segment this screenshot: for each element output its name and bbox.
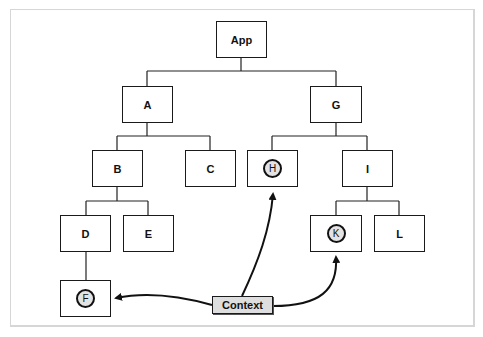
node-label: D bbox=[82, 228, 90, 240]
node-app: App bbox=[216, 21, 267, 58]
node-label: B bbox=[114, 163, 122, 175]
node-label: H bbox=[269, 163, 276, 174]
node-h: H bbox=[247, 150, 298, 187]
node-label: F bbox=[82, 293, 88, 304]
node-i: I bbox=[342, 150, 393, 187]
node-f: F bbox=[60, 280, 111, 317]
node-c: C bbox=[185, 150, 236, 187]
node-label: E bbox=[145, 228, 152, 240]
node-e: E bbox=[123, 215, 174, 252]
node-g: G bbox=[310, 86, 362, 123]
node-label: App bbox=[231, 34, 252, 46]
node-label: K bbox=[333, 228, 340, 239]
node-d: D bbox=[60, 215, 111, 252]
node-a: A bbox=[122, 86, 173, 123]
node-k: K bbox=[310, 215, 362, 252]
node-label: L bbox=[396, 228, 403, 240]
node-b: B bbox=[92, 150, 143, 187]
node-label: I bbox=[366, 163, 369, 175]
node-label: G bbox=[332, 99, 341, 111]
node-l: L bbox=[374, 215, 425, 252]
node-label: A bbox=[144, 99, 152, 111]
highlight-circle-icon: H bbox=[263, 159, 282, 178]
context-box: Context bbox=[212, 296, 273, 314]
node-label: C bbox=[207, 163, 215, 175]
context-label: Context bbox=[222, 299, 263, 311]
highlight-circle-icon: K bbox=[327, 224, 346, 243]
highlight-circle-icon: F bbox=[76, 289, 95, 308]
